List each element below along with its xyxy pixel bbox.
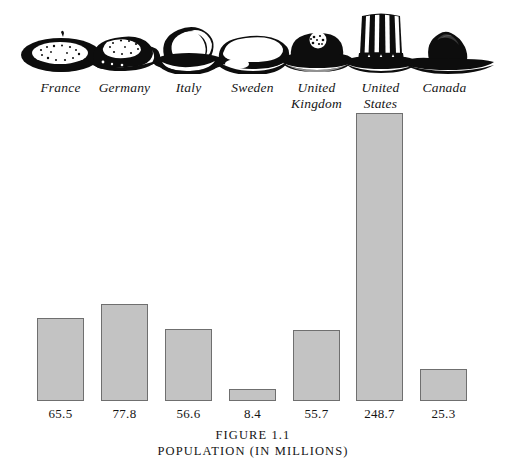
bar-germany	[101, 304, 148, 401]
figure-caption-title: FIGURE 1.1	[0, 428, 506, 443]
mountie-hat-icon	[398, 8, 498, 74]
bar-italy	[165, 329, 212, 401]
bar-united-kingdom	[293, 330, 340, 401]
figure-caption-subtitle: POPULATION (IN MILLIONS)	[0, 444, 506, 458]
population-bar-chart-figure: France Germany Italy Sweden United Kingd…	[0, 0, 506, 458]
figure-caption: FIGURE 1.1 POPULATION (IN MILLIONS)	[0, 428, 506, 458]
country-label-canada: Canada	[398, 80, 491, 96]
bar-canada	[420, 369, 467, 401]
bar-united-states	[356, 113, 403, 401]
bar-sweden	[229, 389, 276, 401]
bar-france	[37, 318, 84, 401]
value-label-canada: 25.3	[397, 406, 490, 422]
